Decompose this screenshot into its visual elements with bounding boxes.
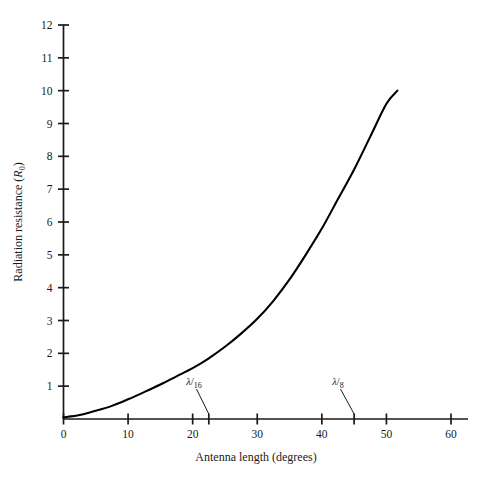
x-tick-label-30: 30 [252, 428, 264, 440]
annotation-label-lambda-over-16: λ/16 [185, 376, 201, 390]
y-tick-label-7: 7 [47, 183, 53, 195]
x-axis-title: Antenna length (degrees) [195, 450, 316, 464]
y-tick-label-10: 10 [41, 85, 53, 97]
y-tick-label-8: 8 [47, 150, 53, 162]
y-axis-title: Radiation resistance (R0) [11, 162, 27, 281]
radiation-resistance-chart: 123456789101112 0102030405060 λ/16λ/8 An… [0, 0, 479, 482]
y-tick-label-4: 4 [47, 282, 53, 294]
data-series-group [64, 91, 398, 418]
annotation-lambda-over-8: λ/8 [331, 376, 354, 425]
annotation-label-lambda-over-8: λ/8 [331, 376, 343, 390]
y-tick-label-2: 2 [47, 347, 53, 359]
x-axis-ticks: 0102030405060 [61, 414, 457, 441]
y-tick-label-3: 3 [47, 315, 53, 327]
annotation-leader-lambda-over-8 [340, 389, 354, 414]
y-tick-label-1: 1 [47, 380, 53, 392]
y-tick-label-5: 5 [47, 249, 53, 261]
chart-canvas: 123456789101112 0102030405060 λ/16λ/8 An… [0, 0, 479, 482]
y-tick-label-11: 11 [41, 52, 52, 64]
annotation-leader-lambda-over-16 [196, 389, 208, 414]
x-tick-label-0: 0 [61, 428, 67, 440]
x-tick-label-10: 10 [122, 428, 134, 440]
radiation-resistance-curve [64, 91, 398, 418]
x-tick-label-50: 50 [381, 428, 393, 440]
y-axis-ticks: 123456789101112 [41, 19, 69, 392]
annotation-lambda-over-16: λ/16 [185, 376, 209, 425]
y-tick-label-12: 12 [41, 19, 53, 31]
y-tick-label-9: 9 [47, 118, 53, 130]
x-tick-label-20: 20 [187, 428, 199, 440]
x-tick-label-60: 60 [445, 428, 457, 440]
x-tick-label-40: 40 [316, 428, 328, 440]
y-tick-label-6: 6 [47, 216, 53, 228]
axes [64, 25, 469, 419]
curve-annotations: λ/16λ/8 [185, 376, 354, 425]
